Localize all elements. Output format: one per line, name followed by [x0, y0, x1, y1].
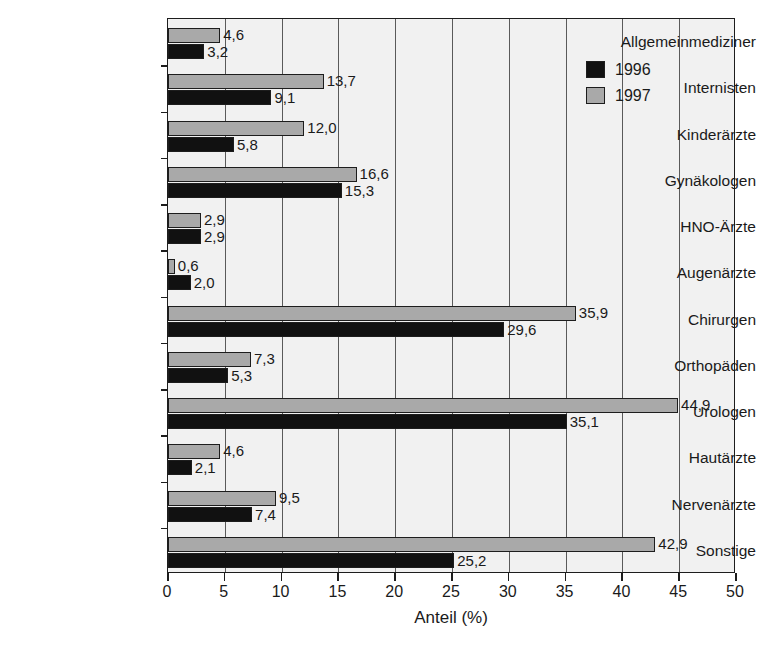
- x-axis-tick: [167, 573, 169, 581]
- bar-value-label-1997: 16,6: [357, 166, 389, 181]
- category-label: Sonstige: [601, 543, 766, 559]
- y-axis-tick: [161, 343, 168, 345]
- category-label: Hautärzte: [601, 450, 766, 466]
- bar-1996: [168, 507, 252, 522]
- x-axis-tick: [621, 573, 623, 581]
- legend-entry: 1997: [586, 84, 676, 106]
- x-axis-tick: [565, 573, 567, 581]
- y-axis-tick: [161, 65, 168, 67]
- x-axis-title: Anteil (%): [167, 608, 735, 628]
- bar-value-label-1997: 9,5: [276, 490, 300, 505]
- x-axis-tick: [451, 573, 453, 581]
- y-axis-tick: [161, 528, 168, 530]
- y-axis-tick: [161, 389, 168, 391]
- y-axis-tick: [161, 435, 168, 437]
- bar-1996: [168, 229, 201, 244]
- bar-value-label-1996: 9,1: [271, 90, 295, 105]
- bar-1997: [168, 74, 324, 89]
- bar-value-label-1997: 7,3: [251, 351, 275, 366]
- category-label: Gynäkologen: [601, 173, 766, 189]
- x-axis-tick: [394, 573, 396, 581]
- bar-1997: [168, 352, 251, 367]
- category-label: Orthopäden: [601, 358, 766, 374]
- bar-value-label-1996: 5,8: [234, 137, 258, 152]
- category-label: Allgemeinmediziner: [601, 34, 766, 50]
- x-axis-tick-label: 15: [317, 583, 357, 601]
- x-axis-tick: [224, 573, 226, 581]
- legend-swatch-1996-icon: [586, 61, 605, 78]
- bar-1996: [168, 414, 567, 429]
- chart-legend: 19961997: [586, 58, 676, 110]
- x-axis-tick-label: 45: [658, 583, 698, 601]
- x-axis-tick: [735, 573, 737, 581]
- bar-value-label-1996: 7,4: [252, 507, 276, 522]
- x-axis-tick: [281, 573, 283, 581]
- x-axis-tick: [508, 573, 510, 581]
- category-label: Urologen: [601, 404, 766, 420]
- x-axis-tick: [337, 573, 339, 581]
- bar-1997: [168, 28, 220, 43]
- bar-value-label-1997: 0,6: [175, 258, 199, 273]
- x-axis-tick-label: 25: [431, 583, 471, 601]
- bar-value-label-1996: 2,0: [191, 275, 215, 290]
- bar-value-label-1996: 35,1: [567, 414, 599, 429]
- x-axis-tick-label: 0: [147, 583, 187, 601]
- category-label: Nervenärzte: [601, 497, 766, 513]
- x-axis-tick-label: 10: [261, 583, 301, 601]
- legend-label: 1997: [615, 87, 651, 104]
- bar-1996: [168, 460, 192, 475]
- x-axis-tick-label: 5: [204, 583, 244, 601]
- legend-entry: 1996: [586, 58, 676, 80]
- bar-1996: [168, 90, 271, 105]
- bar-1996: [168, 368, 228, 383]
- category-label: Kinderärzte: [601, 127, 766, 143]
- bar-1996: [168, 137, 234, 152]
- category-label: Augenärzte: [601, 265, 766, 281]
- bar-value-label-1996: 25,2: [454, 553, 486, 568]
- bar-value-label-1997: 4,6: [220, 443, 244, 458]
- legend-swatch-1997-icon: [586, 87, 605, 104]
- bar-1996: [168, 183, 342, 198]
- bar-value-label-1997: 2,9: [201, 212, 225, 227]
- x-axis-tick-label: 40: [601, 583, 641, 601]
- bar-1997: [168, 537, 655, 552]
- bar-1996: [168, 44, 204, 59]
- category-label: HNO-Ärzte: [601, 219, 766, 235]
- bar-1997: [168, 444, 220, 459]
- category-label: Chirurgen: [601, 312, 766, 328]
- bar-value-label-1997: 12,0: [304, 120, 336, 135]
- bar-value-label-1996: 2,9: [201, 229, 225, 244]
- bar-value-label-1997: 13,7: [324, 73, 356, 88]
- bar-1997: [168, 259, 175, 274]
- bar-value-label-1996: 3,2: [204, 44, 228, 59]
- y-axis-tick: [161, 112, 168, 114]
- bar-1997: [168, 491, 276, 506]
- bar-1997: [168, 213, 201, 228]
- bar-value-label-1996: 2,1: [192, 460, 216, 475]
- bar-1997: [168, 121, 304, 136]
- bar-1997: [168, 167, 357, 182]
- x-axis-tick: [678, 573, 680, 581]
- bar-value-label-1996: 5,3: [228, 368, 252, 383]
- y-axis-tick: [161, 297, 168, 299]
- legend-label: 1996: [615, 61, 651, 78]
- y-axis-tick: [161, 158, 168, 160]
- bar-1996: [168, 322, 504, 337]
- x-axis-tick-label: 30: [488, 583, 528, 601]
- x-axis-tick-label: 50: [715, 583, 755, 601]
- bar-value-label-1997: 4,6: [220, 27, 244, 42]
- bar-value-label-1996: 15,3: [342, 183, 374, 198]
- y-axis-tick: [161, 204, 168, 206]
- bar-value-label-1996: 29,6: [504, 322, 536, 337]
- x-axis-tick-label: 20: [374, 583, 414, 601]
- y-axis-tick: [161, 482, 168, 484]
- bar-1996: [168, 275, 191, 290]
- bar-1996: [168, 553, 454, 568]
- bar-1997: [168, 306, 576, 321]
- bar-chart-figure: 4,63,213,79,112,05,816,615,32,92,90,62,0…: [0, 0, 766, 655]
- y-axis-tick: [161, 250, 168, 252]
- x-axis-tick-label: 35: [545, 583, 585, 601]
